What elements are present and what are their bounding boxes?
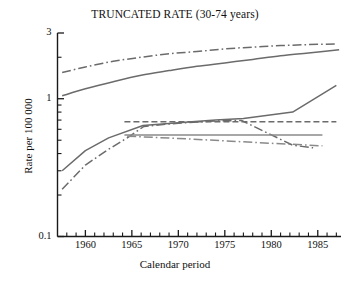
y-axis-tick-label: 0.1 (12, 230, 52, 241)
x-axis-tick-label: 1970 (158, 239, 198, 250)
series-1-top-dashdot (62, 44, 336, 73)
series-2-upper-solid (62, 50, 339, 96)
x-axis-title: Calendar period (0, 258, 350, 270)
x-axis-tick-label: 1960 (65, 239, 105, 250)
y-axis-title: Rate per 100 000 (22, 56, 34, 216)
y-axis-tick-label: 1 (12, 92, 52, 103)
x-axis-tick-label: 1965 (112, 239, 152, 250)
x-axis-tick-label: 1985 (298, 239, 338, 250)
x-axis-tick-label: 1975 (205, 239, 245, 250)
chart-figure: TRUNCATED RATE (30-74 years) Calendar pe… (0, 0, 350, 293)
series-7-declining-dashdot (127, 136, 322, 146)
data-series-group (62, 44, 339, 189)
series-3-rising-solid (62, 85, 336, 170)
y-axis-tick-label: 3 (12, 26, 52, 37)
series-4-rising-dashdot (62, 121, 313, 190)
x-axis-ticks (67, 230, 337, 237)
y-axis-ticks (58, 33, 65, 237)
x-axis-tick-label: 1980 (251, 239, 291, 250)
